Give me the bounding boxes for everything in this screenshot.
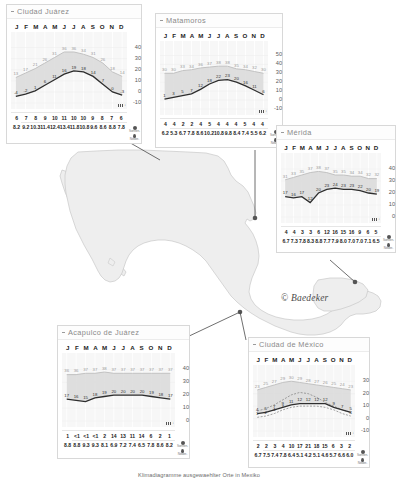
data-cell: 5 [240,121,249,127]
row-divider [72,440,175,441]
panel-legend: Sonnen-Nieder- [357,450,368,465]
legend-sunshine-label: Sonnen- [357,454,368,457]
data-point-label: 19 [374,188,379,193]
data-point-label: 18 [81,66,86,71]
data-point-label: 32 [252,65,257,70]
y-axis-tick-label: 30 [276,70,282,76]
month-label: J [282,144,290,151]
month-label: O [356,144,364,151]
data-point-label: 34 [81,48,86,53]
climate-panel-merida[interactable]: MéridaJFMAMJJASOND3133353738373535343432… [276,125,396,253]
data-point-label: 27 [314,379,319,384]
data-point-label: 34 [349,170,354,175]
data-cell: 5 [205,121,214,127]
data-cell: 6 [364,229,372,235]
month-label: N [107,23,117,30]
month-label: J [331,144,339,151]
legend-precipitation: Nieder- [130,134,139,141]
legend-sunshine: Sonnen- [129,126,140,133]
climate-panel-matamoros[interactable]: MatamorosJFMAMJJASOND3030333436373838353… [155,13,283,148]
data-cell: 12.4 [50,124,60,130]
data-cell: 15 [321,443,329,449]
climate-plot-merida: 3133353738373535343432321716171220232423… [281,153,381,223]
climate-panel-ciudad-juarez[interactable]: Ciudad JuárezJFMAMJJASOND131721263136363… [6,4,142,144]
data-cell: 2 [254,443,262,449]
data-cell: 4 [258,121,267,127]
panel-title-ciudad-de-mexico: Ciudad de México [249,338,369,352]
panel-body-ciudad-juarez: JFMAMJJASOND131721263136363431261814-4-2… [7,23,141,130]
data-cell: 7.0 [347,238,355,244]
data-cell: 9 [88,115,98,121]
data-cell: 7.1 [364,238,372,244]
climate-panel-ciudad-de-mexico[interactable]: Ciudad de MéxicoJFMAMJJASOND232527293029… [248,337,370,468]
data-cell: 7.4 [128,442,137,448]
data-point-label: 17 [168,393,173,398]
data-point-label: 23 [255,384,260,389]
arrow-down-icon: ↓ [378,217,380,221]
data-cell: 8.6 [156,442,165,448]
data-point-label: 32 [366,172,371,177]
arrow-down-icon: ↓ [352,431,354,435]
data-cell: 4 [249,121,258,127]
data-point-label: 36 [198,62,203,67]
data-cell: 8 [98,115,108,121]
data-cell: 8.6 [98,124,107,130]
data-point-label: 20 [111,389,116,394]
climate-panel-acapulco-de-juarez[interactable]: Acapulco de JuárezJFMAMJJASOND3636373738… [57,325,190,459]
data-point-label: 23 [225,73,230,78]
bullet-marker [11,11,14,13]
data-point-label: 12 [306,397,311,402]
data-point-label: 38 [225,60,230,65]
data-cell: 7.4 [241,130,250,136]
data-point-label: 36 [64,368,69,373]
month-label: J [60,23,70,30]
data-point-label: 23 [349,183,354,188]
month-label: S [321,356,329,363]
data-point-label: 34 [189,64,194,69]
data-cell: 5.3 [170,130,179,136]
data-point-label: 17 [283,190,288,195]
data-point-label: 23 [324,183,329,188]
legend-precipitation: Nieder- [384,243,393,250]
month-label: S [137,344,146,351]
data-cell: 6.7 [282,238,290,244]
arrow-down-icon: ↓ [265,109,267,113]
y-axis-tick-label: 50 [276,52,282,58]
month-axis-labels: JFMAMJJASOND [253,356,355,363]
panel-body-ciudad-de-mexico: JFMAMJJASOND2325272930292827262524234579… [249,356,369,458]
data-point-label: 37 [158,367,163,372]
data-row-sunshine: 1<1<1<1214131114621 [62,433,175,439]
y-axis-tick-label: 20 [389,190,395,196]
month-label: M [315,144,323,151]
month-label: A [187,32,196,39]
month-axis-labels: JFMAMJJASOND [11,23,127,30]
month-label: F [170,32,179,39]
data-cell: 9.6 [89,124,98,130]
data-point-label: 36 [74,368,79,373]
legend-precipitation-label: Nieder- [178,453,187,456]
data-cell: 6 [117,115,127,121]
data-point-label: 12 [297,397,302,402]
month-label: A [41,23,51,30]
data-cell: 9.2 [21,124,30,130]
bullet-marker [160,20,163,22]
row-divider [62,430,175,431]
data-point-label: 11 [252,84,257,89]
y-axis-tick-label: 30 [183,379,189,385]
data-cell: 5.1 [312,452,320,458]
panel-title-text: Ciudad Juárez [17,7,69,16]
data-cell: 16 [331,229,339,235]
data-cell: 6.7 [254,452,262,458]
data-cell: 2 [346,443,354,449]
data-point-label: 24 [333,182,338,187]
y-axis-tick-label: 40 [276,61,282,67]
data-cell: 4 [214,121,223,127]
legend-sunshine-label: Sonnen- [177,445,188,448]
data-point-label: 22 [358,184,363,189]
month-label: M [298,144,306,151]
data-point-label: 20 [130,389,135,394]
panel-body-acapulco-de-juarez: JFMAMJJASOND3636373738373737373737371716… [58,344,189,448]
plot-inline-legend: ↓ [259,109,267,113]
legend-sunshine: Sonnen- [383,235,394,242]
month-label: A [339,144,347,151]
